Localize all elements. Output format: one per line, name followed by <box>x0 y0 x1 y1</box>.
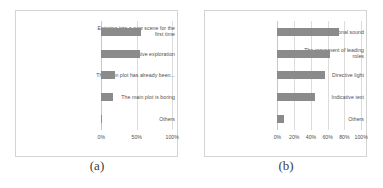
bar <box>277 71 325 79</box>
chart-b-frame: Directional soundThe movement of leading… <box>204 10 367 157</box>
bar-wrapper <box>101 65 115 87</box>
x-tick-label: 0% <box>274 134 282 140</box>
x-tick-label: 60% <box>322 134 332 140</box>
bar <box>101 93 113 101</box>
x-tick-label: 0% <box>98 134 106 140</box>
x-axis: 0%50%100% <box>16 134 177 146</box>
x-tick-label: 100% <box>166 134 179 140</box>
category-label: Others <box>295 116 366 123</box>
chart-a-frame: Entering into a new scene for the first … <box>15 10 178 157</box>
bar-row: Directive light <box>205 65 366 87</box>
bar-wrapper <box>277 65 325 87</box>
caption-b: (b) <box>193 158 379 174</box>
chart-b-rows: Directional soundThe movement of leading… <box>205 21 366 130</box>
bar-row: The main plot has already been... <box>16 65 177 87</box>
x-tick-label: 100% <box>355 134 368 140</box>
bar <box>277 115 284 123</box>
bar-wrapper <box>101 86 113 108</box>
bar-row: Others <box>16 108 177 130</box>
bar-wrapper <box>101 108 102 130</box>
bar <box>277 50 330 58</box>
bar-wrapper <box>277 43 330 65</box>
chart-a-rows: Entering into a new scene for the first … <box>16 21 177 130</box>
bar-row: Others <box>205 108 366 130</box>
bar <box>277 28 339 36</box>
bar-wrapper <box>277 21 339 43</box>
bar-wrapper <box>277 86 315 108</box>
x-tick-label: 50% <box>132 134 142 140</box>
bar <box>101 71 115 79</box>
category-label: Others <box>93 116 177 123</box>
caption-a: (a) <box>4 158 190 174</box>
bar-row: The movement of leading roles <box>205 43 366 65</box>
x-tick-label: 80% <box>339 134 349 140</box>
figure-container: Entering into a new scene for the first … <box>0 0 383 188</box>
bar-row: Habitual inquisitive exploration <box>16 43 177 65</box>
bar-wrapper <box>277 108 284 130</box>
bar-wrapper <box>101 21 141 43</box>
chart-a-plot-area: Entering into a new scene for the first … <box>16 11 177 156</box>
panel-a: Entering into a new scene for the first … <box>4 0 190 188</box>
bar <box>277 93 315 101</box>
panel-b: Directional soundThe movement of leading… <box>193 0 379 188</box>
bar-row: Entering into a new scene for the first … <box>16 21 177 43</box>
bar-row: Indicative text <box>205 86 366 108</box>
chart-b-plot-area: Directional soundThe movement of leading… <box>205 11 366 156</box>
x-axis: 0%20%40%60%80%100% <box>205 134 366 146</box>
bar-wrapper <box>101 43 139 65</box>
x-tick-label: 20% <box>289 134 299 140</box>
bar <box>101 115 102 123</box>
bar <box>101 50 139 58</box>
bar <box>101 28 141 36</box>
x-tick-label: 40% <box>306 134 316 140</box>
bar-row: Directional sound <box>205 21 366 43</box>
bar-row: The main plot is boring <box>16 86 177 108</box>
